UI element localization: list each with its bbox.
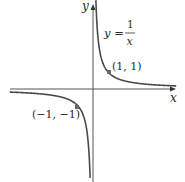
point-label-1-1: (1, 1) [112,60,142,73]
equation-numerator: 1 [127,18,134,30]
point-label-neg1-neg1: (−1, −1) [32,108,80,121]
curve-negative-branch [10,92,90,178]
equation-lhs: y = [103,26,124,40]
graph-canvas: y x y = 1 x (1, 1) (−1, −1) [0,0,185,182]
y-axis-label: y [81,0,89,13]
y-axis-arrow-icon [91,4,96,10]
equation-denominator: x [127,35,134,48]
point-1-1 [107,70,111,74]
x-axis-label: x [170,91,177,105]
